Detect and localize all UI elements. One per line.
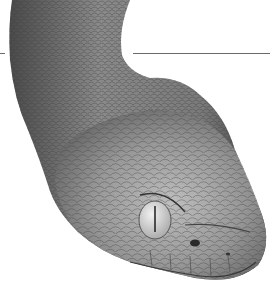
illustration-canvas — [0, 0, 272, 302]
snake-head — [55, 110, 266, 280]
snake-eye — [139, 201, 171, 239]
heat-pit — [190, 240, 200, 247]
nostril — [226, 252, 230, 255]
snake-illustration — [0, 0, 272, 302]
